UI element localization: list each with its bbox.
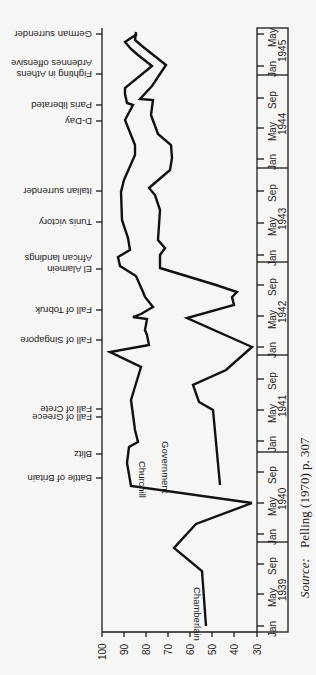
month-label: Sep	[267, 91, 278, 109]
ytick-90: 90	[119, 643, 130, 655]
month-label: Sep	[267, 466, 278, 484]
month-ticks	[257, 34, 264, 626]
month-label: Sep	[267, 557, 278, 575]
source-caption: Source: Pelling (1970) p. 307	[297, 437, 312, 598]
ytick-60: 60	[185, 643, 196, 655]
month-label: Jan	[267, 154, 278, 170]
event-battle-of-britain: Battle of Britain	[28, 473, 92, 484]
event-african-landings: African landings	[24, 253, 92, 264]
event-blitz: Blitz	[74, 449, 92, 460]
value-axis-ticks	[102, 632, 257, 637]
value-axis-labels: 100 90 80 70 60 50 40 30	[97, 643, 263, 660]
ytick-40: 40	[229, 643, 240, 655]
series-government-line	[135, 32, 252, 485]
source-prefix: Source:	[297, 558, 312, 598]
ytick-80: 80	[141, 643, 152, 655]
event-german-surrender: German surrender	[14, 29, 92, 40]
month-label: Jan	[267, 436, 278, 452]
year-labels: 1939 1940 1941 1942 1943 1944 1945	[277, 39, 288, 601]
year-label-1940: 1940	[277, 487, 288, 510]
month-label: Jan	[267, 342, 278, 358]
label-chamberlain: Chamberlain	[192, 587, 203, 641]
ytick-30: 30	[252, 643, 263, 655]
series-chamberlain-line	[174, 503, 252, 626]
month-label: Jan	[267, 250, 278, 266]
event-el-alamein: El Alamein	[47, 264, 92, 275]
year-label-1945: 1945	[277, 39, 288, 62]
approval-rating-chart: 100 90 80 70 60 50 40 30	[0, 0, 316, 675]
event-ticks	[96, 34, 102, 478]
year-label-1939: 1939	[277, 578, 288, 601]
event-labels: German surrender Ardennes offensive Figh…	[11, 29, 92, 484]
year-label-1943: 1943	[277, 207, 288, 230]
ytick-100: 100	[97, 643, 108, 660]
ytick-50: 50	[207, 643, 218, 655]
event-tunis-victory: Tunis victory	[39, 217, 92, 228]
year-label-1942: 1942	[277, 300, 288, 323]
event-italian-surrender: Italian surrender	[23, 186, 92, 197]
month-label: Jan	[267, 621, 278, 637]
series-churchill-line	[110, 34, 252, 503]
month-label: Sep	[267, 278, 278, 296]
label-government: Government	[160, 441, 171, 494]
label-churchill: Churchill	[137, 461, 148, 498]
year-label-1944: 1944	[277, 112, 288, 135]
event-ardennes-offensive: Ardennes offensive	[11, 58, 92, 69]
month-label: Sep	[267, 184, 278, 202]
month-label: Jan	[267, 61, 278, 77]
event-paris-liberated: Paris liberated	[31, 100, 92, 111]
year-label-1941: 1941	[277, 394, 288, 417]
source-text: Pelling (1970) p. 307	[297, 437, 312, 548]
event-fall-of-greece: Fall of Greece	[32, 412, 92, 423]
month-label: Jan	[267, 529, 278, 545]
ytick-70: 70	[163, 643, 174, 655]
event-fall-of-tobruk: Fall of Tobruk	[35, 305, 92, 316]
month-label: Sep	[267, 372, 278, 390]
event-fall-of-singapore: Fall of Singapore	[20, 335, 92, 346]
event-fighting-in-athens: Fighting in Athens	[16, 69, 92, 80]
event-d-day: D-Day	[65, 116, 92, 127]
